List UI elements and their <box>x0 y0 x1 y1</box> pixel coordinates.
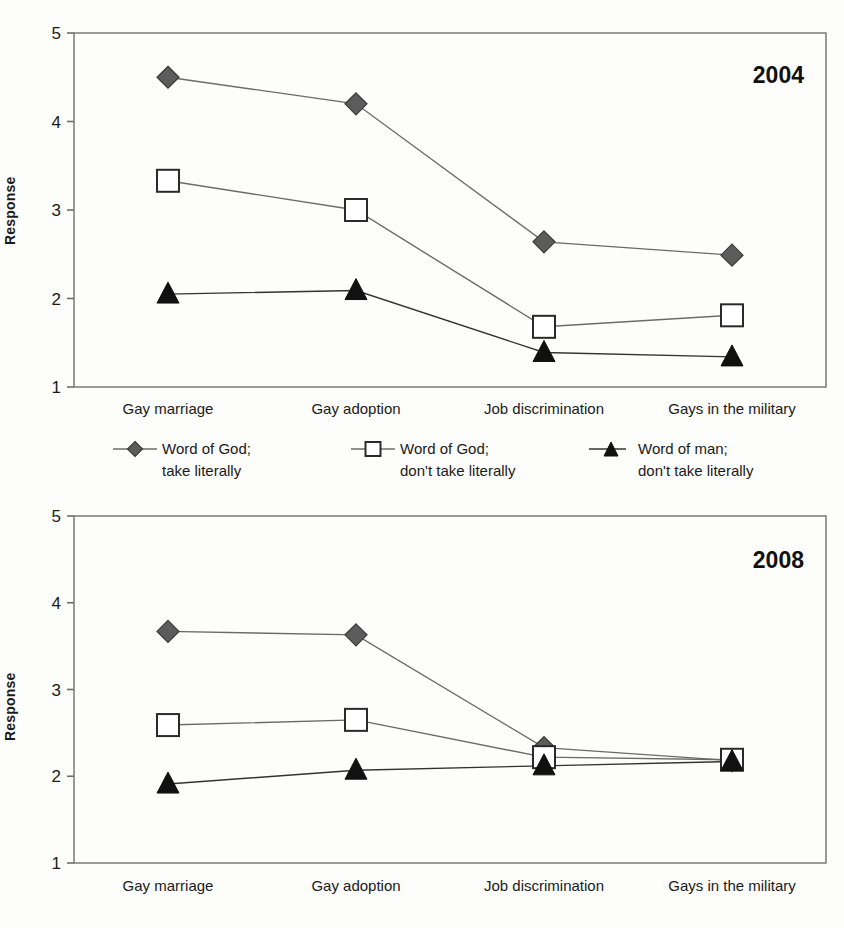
legend-item-2: Word of man;don't take literally <box>588 438 826 502</box>
chart-2004: 123452004Gay marriageGay adoptionJob dis… <box>0 0 844 430</box>
legend: Word of God;take literally Word of God;d… <box>0 430 844 508</box>
square-marker <box>533 316 555 338</box>
category-label: Gay marriage <box>123 400 214 417</box>
series-line-square <box>168 181 732 327</box>
triangle-marker-icon <box>588 440 634 458</box>
category-label: Job discrimination <box>484 400 604 417</box>
category-label: Gay adoption <box>311 400 400 417</box>
diamond-marker <box>157 620 179 642</box>
legend-label-1-line2: don't take literally <box>400 462 515 479</box>
legend-item-0: Word of God;take literally <box>112 438 350 502</box>
square-marker <box>345 199 367 221</box>
square-marker <box>345 709 367 731</box>
diamond-marker <box>345 624 367 646</box>
triangle-marker <box>345 279 367 300</box>
category-label: Gay adoption <box>311 877 400 894</box>
category-label: Job discrimination <box>484 877 604 894</box>
y-tick-label: 1 <box>52 854 61 873</box>
diamond-marker <box>721 244 743 266</box>
diamond-marker <box>533 231 555 253</box>
series-line-diamond <box>168 77 732 255</box>
triangle-marker <box>157 282 179 303</box>
series-line-square <box>168 720 732 760</box>
diamond-marker-icon <box>112 440 158 458</box>
triangle-marker <box>157 772 179 793</box>
panel-title: 2008 <box>753 547 804 573</box>
plot-frame <box>74 516 826 863</box>
legend-label-2-line2: don't take literally <box>638 462 753 479</box>
chart-2008: 123452008Gay marriageGay adoptionJob dis… <box>0 503 844 928</box>
y-tick-label: 2 <box>52 290 61 309</box>
square-marker <box>721 304 743 326</box>
triangle-marker <box>721 345 743 366</box>
series-line-diamond <box>168 631 732 760</box>
y-tick-label: 4 <box>52 113 61 132</box>
legend-label-2-line1: Word of man; <box>638 440 728 457</box>
legend-label-1: Word of God;don't take literally <box>400 438 515 482</box>
chart-svg-2004: 123452004Gay marriageGay adoptionJob dis… <box>0 0 844 430</box>
y-tick-label: 3 <box>52 201 61 220</box>
legend-label-2: Word of man;don't take literally <box>638 438 753 482</box>
y-tick-label: 4 <box>52 594 61 613</box>
category-label: Gay marriage <box>123 877 214 894</box>
panel-2008: Response 123452008Gay marriageGay adopti… <box>0 503 844 928</box>
triangle-marker <box>533 340 555 361</box>
plot-frame <box>74 33 826 387</box>
panel-2004: Response 123452004Gay marriageGay adopti… <box>0 0 844 430</box>
y-tick-label: 5 <box>52 24 61 43</box>
panel-title: 2004 <box>753 62 804 88</box>
y-tick-label: 3 <box>52 681 61 700</box>
diamond-marker <box>157 66 179 88</box>
y-tick-label: 1 <box>52 378 61 397</box>
chart-svg-2008: 123452008Gay marriageGay adoptionJob dis… <box>0 503 844 928</box>
legend-label-0-line1: Word of God; <box>162 440 251 457</box>
square-marker-icon <box>350 440 396 458</box>
y-tick-label: 5 <box>52 507 61 526</box>
square-marker <box>157 714 179 736</box>
series-line-triangle <box>168 291 732 357</box>
legend-label-0: Word of God;take literally <box>162 438 251 482</box>
series-line-triangle <box>168 762 732 785</box>
legend-label-1-line1: Word of God; <box>400 440 489 457</box>
category-label: Gays in the military <box>668 400 796 417</box>
diamond-marker <box>345 93 367 115</box>
triangle-marker <box>345 758 367 779</box>
legend-item-1: Word of God;don't take literally <box>350 438 588 502</box>
legend-label-0-line2: take literally <box>162 462 241 479</box>
square-marker <box>157 170 179 192</box>
y-tick-label: 2 <box>52 767 61 786</box>
category-label: Gays in the military <box>668 877 796 894</box>
